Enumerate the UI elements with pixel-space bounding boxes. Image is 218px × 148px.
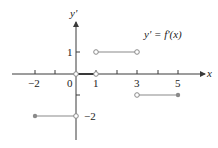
open-endpoint xyxy=(74,72,79,77)
x-axis-label: x xyxy=(206,67,212,79)
x-tick-label-5: 5 xyxy=(175,77,181,89)
open-endpoint xyxy=(94,50,99,55)
closed-endpoint xyxy=(33,114,37,118)
segment-1 xyxy=(33,114,78,119)
x-tick-label-1: 1 xyxy=(93,77,99,89)
open-endpoint xyxy=(74,114,79,119)
derivative-step-chart: y' x y' = f'(x) −2 0 1 3 5 1 −2 xyxy=(0,0,218,148)
chart-svg: y' x y' = f'(x) −2 0 1 3 5 1 −2 xyxy=(0,0,218,148)
x-tick-label-3: 3 xyxy=(134,77,140,89)
segment-2 xyxy=(74,72,99,77)
closed-endpoint xyxy=(176,93,180,97)
open-endpoint xyxy=(135,93,140,98)
y-tick-label-1: 1 xyxy=(67,46,73,58)
segment-3 xyxy=(94,50,140,55)
function-annotation: y' = f'(x) xyxy=(143,28,182,41)
segment-4 xyxy=(135,93,181,98)
open-endpoint xyxy=(94,72,99,77)
x-tick-label-neg2: −2 xyxy=(28,77,40,89)
open-endpoint xyxy=(135,50,140,55)
y-tick-label-neg2: −2 xyxy=(84,110,96,122)
x-tick-label-0: 0 xyxy=(67,77,73,89)
x-ticks xyxy=(35,70,178,74)
y-axis-label: y' xyxy=(69,7,78,19)
